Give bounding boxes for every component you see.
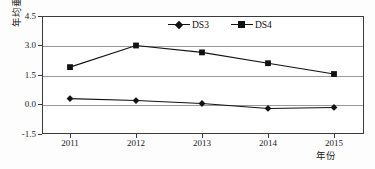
y-tick-mark-0.0 xyxy=(38,104,42,105)
chart-figure: 年均垂直位移/mm 4.5 3.0 1.5 0.0 -1.5 2011 2012… xyxy=(0,0,375,169)
x-axis-title: 年份 xyxy=(316,150,336,161)
x-tick-label-2014: 2014 xyxy=(248,139,288,148)
legend-entry-ds4: DS4 xyxy=(231,19,272,30)
y-tick-mark-1.5 xyxy=(38,75,42,76)
y-tick-label-0.0: 0.0 xyxy=(2,100,36,109)
gridline-0.0 xyxy=(43,105,363,106)
legend-entry-ds3: DS3 xyxy=(168,19,209,30)
y-tick-mark--1.5 xyxy=(38,134,42,135)
x-tick-label-2012: 2012 xyxy=(116,139,156,148)
square-marker-icon xyxy=(238,21,245,28)
gridline-1.5 xyxy=(43,76,363,77)
y-tick-label-1.5: 1.5 xyxy=(2,71,36,80)
legend-label-ds4: DS4 xyxy=(255,20,272,30)
y-tick-label-3.0: 3.0 xyxy=(2,41,36,50)
diamond-marker-icon xyxy=(175,20,183,28)
gridline-3.0 xyxy=(43,46,363,47)
y-tick-label-4.5: 4.5 xyxy=(2,12,36,21)
legend-line-ds3 xyxy=(168,19,190,30)
x-tick-label-2015: 2015 xyxy=(314,139,354,148)
y-tick-mark-4.5 xyxy=(38,16,42,17)
plot-area xyxy=(42,16,364,134)
x-tick-label-2011: 2011 xyxy=(50,139,90,148)
chart-legend: DS3 DS4 xyxy=(168,19,272,30)
x-tick-label-2013: 2013 xyxy=(182,139,222,148)
legend-line-ds4 xyxy=(231,19,253,30)
legend-label-ds3: DS3 xyxy=(192,20,209,30)
y-tick-mark-3.0 xyxy=(38,45,42,46)
y-tick-label--1.5: -1.5 xyxy=(2,130,36,139)
